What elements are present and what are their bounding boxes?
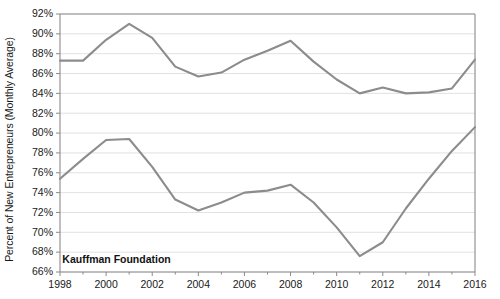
x-tick-label: 2002: [141, 278, 165, 290]
y-tick-label: 86%: [32, 67, 53, 79]
y-tick-label: 92%: [32, 7, 53, 19]
line-chart: Percent of New Entrepreneurs (Monthly Av…: [0, 0, 500, 299]
x-tick-label: 2006: [233, 278, 257, 290]
y-tick-label: 74%: [32, 186, 53, 198]
x-tick-label: 2010: [325, 278, 349, 290]
y-tick-label: 88%: [32, 47, 53, 59]
y-tick-label: 84%: [32, 87, 53, 99]
x-tick-label: 2012: [371, 278, 395, 290]
annotations: Kauffman Foundation: [62, 253, 171, 265]
x-tick-label: 2014: [417, 278, 441, 290]
x-axis-ticks: 1998200020022004200620082010201220142016: [48, 272, 487, 290]
x-tick-label: 2000: [94, 278, 118, 290]
y-tick-label: 90%: [32, 27, 53, 39]
x-tick-label: 2016: [463, 278, 487, 290]
y-tick-label: 78%: [32, 146, 53, 158]
y-tick-label: 66%: [32, 265, 53, 277]
y-tick-label: 70%: [32, 226, 53, 238]
x-tick-label: 2008: [279, 278, 303, 290]
series-line-lower-series: [60, 127, 475, 256]
y-tick-label: 72%: [32, 206, 53, 218]
gridlines: [60, 14, 475, 272]
series-line-upper-series: [60, 24, 475, 93]
y-tick-label: 68%: [32, 245, 53, 257]
plot-area: 92%90%88%86%84%82%80%78%76%74%72%70%68%6…: [0, 0, 500, 299]
y-axis-ticks: 92%90%88%86%84%82%80%78%76%74%72%70%68%6…: [32, 7, 60, 277]
x-tick-label: 2004: [187, 278, 211, 290]
axes: [60, 14, 475, 272]
x-tick-label: 1998: [48, 278, 72, 290]
y-tick-label: 76%: [32, 166, 53, 178]
source-credit: Kauffman Foundation: [62, 253, 171, 265]
y-tick-label: 82%: [32, 107, 53, 119]
series-lines: [60, 24, 475, 256]
y-tick-label: 80%: [32, 126, 53, 138]
